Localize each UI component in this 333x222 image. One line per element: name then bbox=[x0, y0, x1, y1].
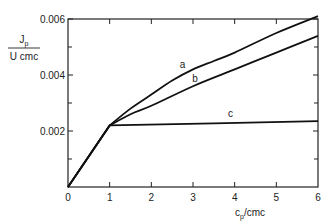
series-line-b bbox=[68, 36, 318, 187]
x-tick-label: 3 bbox=[190, 192, 196, 203]
y-tick-label: 0.004 bbox=[40, 70, 65, 81]
x-tick-label: 6 bbox=[315, 192, 321, 203]
x-tick-label: 2 bbox=[149, 192, 155, 203]
y-title-sub: p bbox=[25, 40, 29, 48]
series-line-c bbox=[68, 121, 318, 187]
y-axis-title: Jp U cmc bbox=[8, 34, 40, 62]
series-line-a bbox=[68, 16, 318, 187]
curves bbox=[68, 16, 318, 187]
y-tick-label: 0.006 bbox=[40, 14, 65, 25]
curve-label-b: b bbox=[192, 73, 198, 84]
tick-labels: 01234560.0020.0040.006 bbox=[40, 14, 321, 204]
x-axis-title: cp/cmc bbox=[235, 207, 265, 221]
curve-label-c: c bbox=[228, 108, 233, 119]
x-tick-label: 0 bbox=[65, 192, 71, 203]
chart: 01234560.0020.0040.006 abc Jp U cmc cp/c… bbox=[0, 0, 333, 222]
ticks bbox=[68, 19, 318, 187]
x-tick-label: 1 bbox=[107, 192, 113, 203]
curve-label-a: a bbox=[180, 59, 186, 70]
y-axis-title-numerator: Jp bbox=[20, 34, 29, 48]
y-tick-label: 0.002 bbox=[40, 126, 65, 137]
x-tick-label: 5 bbox=[274, 192, 280, 203]
x-tick-label: 4 bbox=[232, 192, 238, 203]
x-title-rest: /cmc bbox=[244, 207, 265, 218]
y-axis-title-denominator: U cmc bbox=[10, 51, 38, 62]
plot-frame bbox=[68, 19, 318, 187]
